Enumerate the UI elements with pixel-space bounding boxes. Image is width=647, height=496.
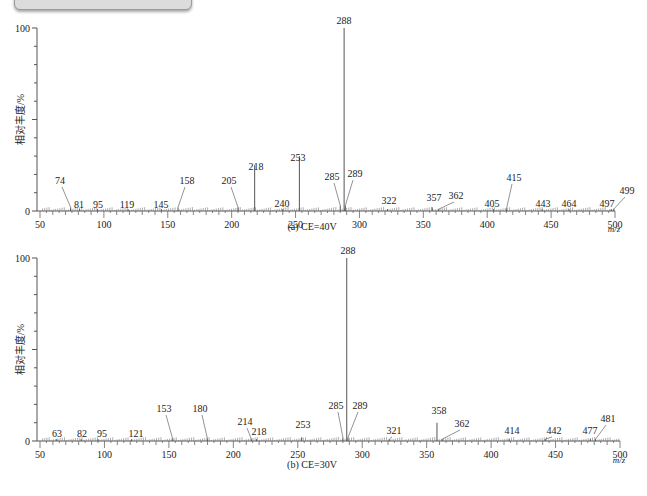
leader-line <box>202 415 208 439</box>
x-tick-label: 100 <box>97 449 112 460</box>
x-tick-label: 200 <box>226 449 241 460</box>
peak-label: 63 <box>52 428 62 439</box>
peak-label: 82 <box>77 428 87 439</box>
peak-label: 288 <box>341 245 356 256</box>
peak-label: 362 <box>455 418 470 429</box>
leader-line <box>338 412 343 437</box>
mass-spectrum-chart-b: 1000相对丰度/%50100150200250300350400450500m… <box>0 0 647 496</box>
peak-label: 218 <box>252 426 267 437</box>
leader-line <box>166 415 173 439</box>
peak-label: 214 <box>238 416 253 427</box>
plot-area: 1000相对丰度/%50100150200250300350400450500m… <box>14 245 628 471</box>
peak-label: 285 <box>329 400 344 411</box>
y-axis-label: 相对丰度/% <box>14 324 26 375</box>
peak-label: 180 <box>193 403 208 414</box>
x-tick-label: 150 <box>161 449 176 460</box>
leader-line <box>442 430 460 439</box>
leader-line <box>348 412 358 437</box>
x-tick-label: 300 <box>355 449 370 460</box>
peak-label: 321 <box>387 425 402 436</box>
peak-label: 253 <box>296 419 311 430</box>
peak-label: 95 <box>97 428 107 439</box>
peak-label: 358 <box>432 405 447 416</box>
peak-label: 481 <box>601 413 616 424</box>
x-tick-label: 450 <box>548 449 563 460</box>
peak-label: 153 <box>157 403 172 414</box>
peak-label: 477 <box>583 425 598 436</box>
y-tick-label: 0 <box>25 436 30 447</box>
peak-label: 414 <box>505 425 520 436</box>
peak-label: 442 <box>547 425 562 436</box>
x-tick-label: 50 <box>35 449 45 460</box>
peak-label: 289 <box>353 400 368 411</box>
chart-caption: (b) CE=30V <box>287 459 338 471</box>
x-tick-label: 350 <box>419 449 434 460</box>
x-tick-label: 400 <box>484 449 499 460</box>
leader-line <box>389 437 392 439</box>
peak-label: 121 <box>129 428 144 439</box>
y-tick-label: 100 <box>15 253 30 264</box>
x-axis-label: m/z <box>613 455 626 465</box>
